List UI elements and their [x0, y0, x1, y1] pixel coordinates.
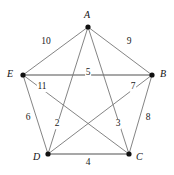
edge-weight-a-d: 2 — [54, 119, 60, 129]
graph-canvas — [0, 0, 174, 175]
vertex-dot-a[interactable] — [85, 24, 90, 29]
vertex-dot-c[interactable] — [126, 151, 131, 156]
vertex-label-c: C — [136, 152, 143, 162]
edge-weight-a-e: 10 — [41, 37, 52, 47]
edge-a-c — [88, 27, 129, 154]
vertex-label-d: D — [33, 152, 40, 162]
edge-b-d — [48, 75, 152, 154]
edge-weight-e-c: 11 — [37, 82, 47, 92]
edge-weight-b-c: 8 — [145, 113, 151, 123]
edge-weight-a-b: 9 — [126, 37, 132, 47]
edge-weight-a-c: 3 — [115, 119, 121, 129]
edge-weight-e-b: 5 — [85, 68, 91, 78]
vertex-label-a: A — [84, 10, 90, 20]
vertex-label-b: B — [160, 69, 166, 79]
edge-weight-b-d: 7 — [130, 82, 136, 92]
vertex-label-e: E — [7, 69, 13, 79]
edge-weight-d-c: 4 — [85, 158, 91, 168]
vertex-dot-b[interactable] — [149, 72, 154, 77]
vertex-dot-e[interactable] — [20, 72, 25, 77]
weighted-graph-figure: ABCDE 109511762384 — [0, 0, 174, 175]
edge-a-b — [88, 27, 152, 75]
edge-weight-e-d: 6 — [25, 113, 31, 123]
vertex-dot-d[interactable] — [45, 151, 50, 156]
edge-a-d — [48, 27, 88, 154]
edge-a-e — [23, 27, 88, 75]
